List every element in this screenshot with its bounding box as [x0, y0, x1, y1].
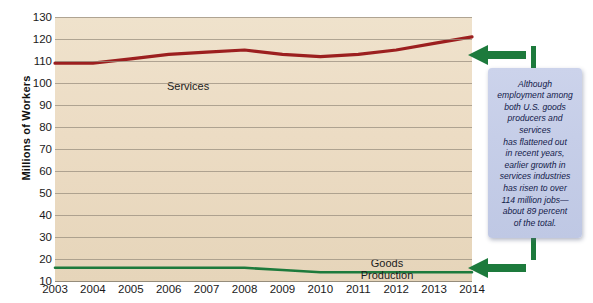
left-arrow-icon-bottom: [466, 254, 526, 282]
x-tick-label-2007: 2007: [194, 283, 220, 295]
y-tick-label-60: 60: [16, 165, 52, 177]
y-tick-label-70: 70: [16, 143, 52, 155]
chart-figure: Millions of Workers 13012011010090807060…: [0, 0, 593, 303]
y-tick-label-80: 80: [16, 121, 52, 133]
x-tick-label-2009: 2009: [270, 283, 296, 295]
gridline-60: [55, 171, 472, 172]
x-tick-label-2011: 2011: [346, 283, 371, 295]
gridline-90: [55, 105, 472, 106]
gridline-100: [55, 83, 472, 84]
gridline-50: [55, 193, 472, 194]
y-tick-label-40: 40: [16, 209, 52, 221]
y-tick-label-130: 130: [16, 11, 52, 23]
y-tick-label-120: 120: [16, 33, 52, 45]
gridline-80: [55, 127, 472, 128]
callout-text: Although employment among both U.S. good…: [497, 79, 572, 230]
gridline-70: [55, 149, 472, 150]
left-arrow-icon-top: [466, 41, 526, 69]
x-tick-label-2004: 2004: [80, 283, 106, 295]
y-tick-label-20: 20: [16, 253, 52, 265]
gridline-20: [55, 259, 472, 260]
series-line-services: [55, 37, 472, 63]
gridline-40: [55, 215, 472, 216]
gridline-120: [55, 39, 472, 40]
y-tick-label-30: 30: [16, 231, 52, 243]
gridline-10: [55, 281, 472, 282]
y-tick-label-50: 50: [16, 187, 52, 199]
x-axis-tick-labels: 2003200420052006200720082009201020112012…: [55, 283, 472, 301]
gridline-110: [55, 61, 472, 62]
x-tick-label-2006: 2006: [156, 283, 182, 295]
x-tick-label-2005: 2005: [118, 283, 144, 295]
callout-box: Although employment among both U.S. good…: [488, 68, 582, 238]
y-tick-label-90: 90: [16, 99, 52, 111]
x-tick-label-2012: 2012: [383, 283, 409, 295]
x-tick-label-2014: 2014: [459, 283, 485, 295]
x-tick-label-2003: 2003: [42, 283, 68, 295]
series-label-services: Services: [167, 80, 209, 92]
x-tick-label-2013: 2013: [421, 283, 447, 295]
y-axis-tick-labels: 130120110100908070605040302010: [16, 0, 52, 303]
y-tick-label-110: 110: [16, 55, 52, 67]
gridline-30: [55, 237, 472, 238]
series-label-goods: Goods Production: [355, 257, 419, 281]
plot-area: Services Goods Production: [55, 17, 472, 281]
y-tick-label-100: 100: [16, 77, 52, 89]
gridline-130: [55, 17, 472, 18]
series-label-goods-line2: Production: [355, 269, 419, 281]
x-tick-label-2010: 2010: [308, 283, 334, 295]
x-tick-label-2008: 2008: [232, 283, 258, 295]
